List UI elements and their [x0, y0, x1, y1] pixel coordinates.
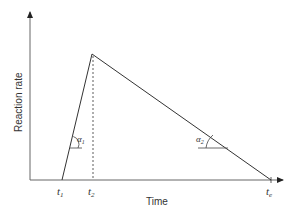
- te-label: te: [266, 185, 272, 199]
- rising-line: [62, 54, 92, 180]
- alpha1-label: α1: [77, 134, 85, 145]
- t1-label: t1: [57, 185, 64, 199]
- t2-label: t2: [88, 185, 95, 199]
- falling-line: [92, 54, 271, 180]
- reaction-rate-diagram: α1 α2 t1 t2 te Time Reaction rate: [0, 0, 295, 212]
- alpha2-label: α2: [196, 134, 204, 145]
- y-axis-label: Reaction rate: [13, 72, 24, 132]
- x-axis-label: Time: [146, 196, 168, 207]
